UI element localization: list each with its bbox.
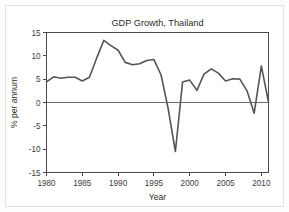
x-axis-tick-label: 1990	[109, 179, 128, 188]
y-axis-tick-label: -5	[33, 122, 41, 131]
y-axis-tick-label: 0	[36, 99, 41, 108]
chart-figure: -15-10-505101519801985199019952000200520…	[0, 0, 289, 212]
x-axis-tick-label: 1995	[145, 179, 164, 188]
y-axis-tick-label: -15	[29, 169, 41, 178]
x-axis-tick-label: 1985	[73, 179, 92, 188]
y-axis-tick-label: 5	[36, 75, 41, 84]
y-axis-title: % per annum	[9, 77, 19, 128]
gdp-growth-line-chart: -15-10-505101519801985199019952000200520…	[0, 0, 289, 212]
x-axis-tick-label: 2005	[216, 179, 235, 188]
x-axis-tick-label: 1980	[37, 179, 56, 188]
chart-title: GDP Growth, Thailand	[111, 18, 203, 28]
x-axis-title: Year	[149, 192, 167, 202]
y-axis-tick-label: 10	[31, 52, 41, 61]
y-axis-tick-label: -10	[29, 145, 41, 154]
y-axis-tick-label: 15	[31, 29, 41, 38]
x-axis-tick-label: 2010	[252, 179, 271, 188]
x-axis-tick-label: 2000	[181, 179, 200, 188]
data-series-line	[47, 40, 269, 151]
